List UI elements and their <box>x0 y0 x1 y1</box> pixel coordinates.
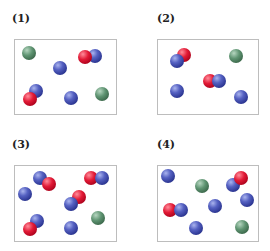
blue-atom <box>64 197 78 211</box>
blue-atom <box>208 199 222 213</box>
red-atom <box>23 222 37 236</box>
green-atom <box>195 179 209 193</box>
panel-2-label: (2) <box>157 12 175 25</box>
green-atom <box>235 220 249 234</box>
panel-3-label: (3) <box>12 138 30 151</box>
red-atom <box>78 50 92 64</box>
blue-atom <box>240 193 254 207</box>
blue-atom <box>170 54 184 68</box>
red-atom <box>23 92 37 106</box>
blue-atom <box>189 221 203 235</box>
green-atom <box>95 87 109 101</box>
blue-atom <box>64 91 78 105</box>
blue-atom <box>64 221 78 235</box>
blue-atom <box>174 203 188 217</box>
blue-atom <box>234 90 248 104</box>
red-atom <box>234 171 248 185</box>
green-atom <box>91 211 105 225</box>
blue-atom <box>18 187 32 201</box>
blue-atom <box>53 61 67 75</box>
green-atom <box>22 46 36 60</box>
panel-1-label: (1) <box>12 12 30 25</box>
blue-atom <box>161 169 175 183</box>
red-atom <box>42 177 56 191</box>
blue-atom <box>95 171 109 185</box>
blue-atom <box>212 74 226 88</box>
panel-4-label: (4) <box>157 138 175 151</box>
blue-atom <box>170 84 184 98</box>
green-atom <box>229 49 243 63</box>
